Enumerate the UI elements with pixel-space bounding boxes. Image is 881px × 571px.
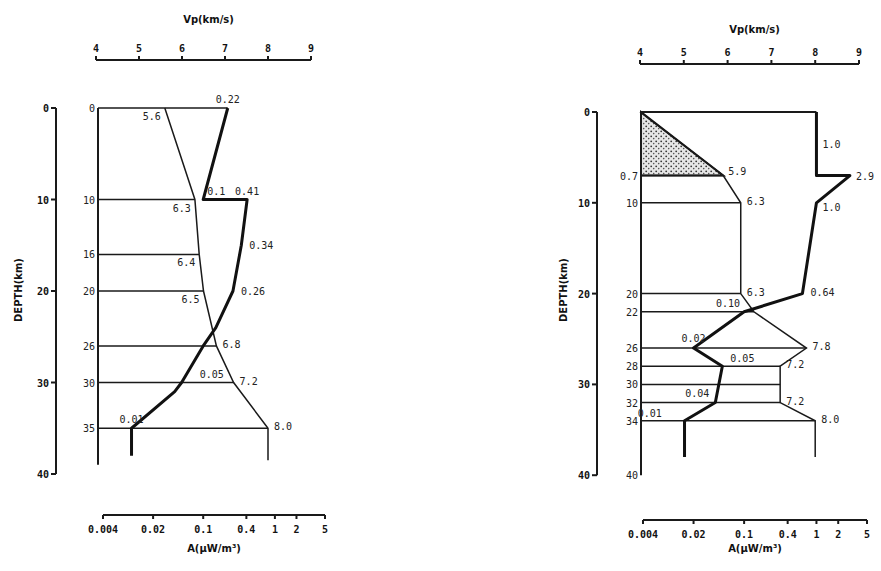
q-axis-title: A(μW/m³) <box>187 543 241 554</box>
vp-tick-label: 6 <box>725 47 731 58</box>
vp-value-label: 6.4 <box>177 257 195 268</box>
layer-depth-label: 30 <box>626 379 638 390</box>
layer-depth-label: 34 <box>626 416 638 427</box>
vp-tick-label: 4 <box>93 43 99 54</box>
q-value-label: 2.9 <box>856 171 874 182</box>
vp-value-label: 6.8 <box>222 339 240 350</box>
q-tick-label: 0.004 <box>88 524 118 535</box>
q-tick-label: 0.1 <box>194 524 212 535</box>
vp-tick-label: 7 <box>768 47 774 58</box>
vp-value-label: 5.9 <box>728 166 746 177</box>
q-tick-label: 2 <box>293 524 299 535</box>
layer-depth-label: 40 <box>626 470 638 481</box>
vp-value-label: 7.2 <box>786 396 804 407</box>
q-value-label: 0.05 <box>200 369 224 380</box>
q-value-label: 0.02 <box>682 333 706 344</box>
vp-value-label: 6.3 <box>173 203 191 214</box>
depth-tick-label: 40 <box>37 469 49 480</box>
layer-depth-label: 26 <box>626 343 638 354</box>
q-tick-label: 2 <box>835 529 841 540</box>
depth-tick-label: 30 <box>578 379 590 390</box>
vp-value-label: 8.0 <box>821 414 839 425</box>
depth-tick-label: 20 <box>37 286 49 297</box>
vp-tick-label: 9 <box>308 43 314 54</box>
vp-value-label: 7.2 <box>240 376 258 387</box>
layer-depth-label: 26 <box>83 341 95 352</box>
layer-depth-label: 20 <box>626 289 638 300</box>
q-value-label: 0.1 <box>207 186 225 197</box>
q-value-label: 0.01 <box>638 408 662 419</box>
vp-value-label: 6.5 <box>181 294 199 305</box>
layer-depth-label: 16 <box>83 249 95 260</box>
vp-tick-label: 7 <box>222 43 228 54</box>
layer-depth-label: 30 <box>83 378 95 389</box>
q-tick-label: 0.02 <box>141 524 165 535</box>
q-value-label: 0.34 <box>249 240 273 251</box>
depth-tick-label: 30 <box>37 378 49 389</box>
depth-axis-title: DEPTH(km) <box>558 258 569 322</box>
vp-tick-label: 6 <box>179 43 185 54</box>
q-value-label: 0.04 <box>685 388 709 399</box>
layer-depth-label: 35 <box>83 423 95 434</box>
q-tick-label: 0.4 <box>779 529 797 540</box>
q-value-label: 0.64 <box>810 287 834 298</box>
layer-depth-label: 32 <box>626 398 638 409</box>
layer-depth-label: 20 <box>83 286 95 297</box>
depth-axis-title: DEPTH(km) <box>13 258 24 322</box>
layer-depth-label: 28 <box>626 361 638 372</box>
left-panel: Vp(km/s)456789010203040DEPTH(km)0.0040.0… <box>13 14 328 554</box>
vp-tick-label: 5 <box>136 43 142 54</box>
vp-value-label: 6.3 <box>747 287 765 298</box>
q-value-label: 1.0 <box>822 202 840 213</box>
layer-depth-label: 22 <box>626 307 638 318</box>
vp-profile-line <box>165 108 268 460</box>
q-value-label: 0.10 <box>716 298 740 309</box>
q-value-label: 0.26 <box>241 286 265 297</box>
depth-tick-label: 10 <box>37 195 49 206</box>
heat-production-profile-line <box>132 108 248 456</box>
q-tick-label: 0.4 <box>237 524 255 535</box>
depth-tick-label: 40 <box>578 470 590 481</box>
right-panel: Vp(km/s)456789010203040DEPTH(km)0.0040.0… <box>558 24 874 554</box>
q-value-label: 0.01 <box>119 414 143 425</box>
figure-canvas: Vp(km/s)456789010203040DEPTH(km)0.0040.0… <box>0 0 881 571</box>
q-value-label: 0.22 <box>216 94 240 105</box>
q-tick-label: 1 <box>813 529 819 540</box>
q-tick-label: 1 <box>272 524 278 535</box>
q-tick-label: 5 <box>322 524 328 535</box>
vp-value-label: 5.6 <box>143 111 161 122</box>
depth-tick-label: 10 <box>578 198 590 209</box>
vp-tick-label: 5 <box>681 47 687 58</box>
q-value-label: 0.41 <box>235 186 259 197</box>
vp-tick-label: 8 <box>812 47 818 58</box>
q-value-label: 1.0 <box>822 139 840 150</box>
vp-tick-label: 8 <box>265 43 271 54</box>
q-tick-label: 0.004 <box>628 529 658 540</box>
vp-tick-label: 4 <box>637 47 643 58</box>
depth-tick-label: 20 <box>578 289 590 300</box>
q-tick-label: 0.1 <box>735 529 753 540</box>
vp-axis-title: Vp(km/s) <box>729 24 780 35</box>
q-tick-label: 5 <box>864 529 870 540</box>
vp-tick-label: 9 <box>856 47 862 58</box>
vp-value-label: 7.8 <box>812 341 830 352</box>
layer-depth-label: 10 <box>83 195 95 206</box>
vp-value-label: 8.0 <box>274 421 292 432</box>
layer-depth-label: 0.7 <box>620 171 638 182</box>
q-value-label: 0.05 <box>730 353 754 364</box>
q-axis-title: A(μW/m³) <box>728 543 782 554</box>
depth-tick-label: 0 <box>584 107 590 118</box>
q-tick-label: 0.02 <box>682 529 706 540</box>
layer-depth-label: 10 <box>626 198 638 209</box>
vp-value-label: 7.2 <box>786 359 804 370</box>
layer-depth-label: 0 <box>89 103 95 114</box>
vp-axis-title: Vp(km/s) <box>183 14 234 25</box>
depth-tick-label: 0 <box>43 103 49 114</box>
vp-value-label: 6.3 <box>747 196 765 207</box>
